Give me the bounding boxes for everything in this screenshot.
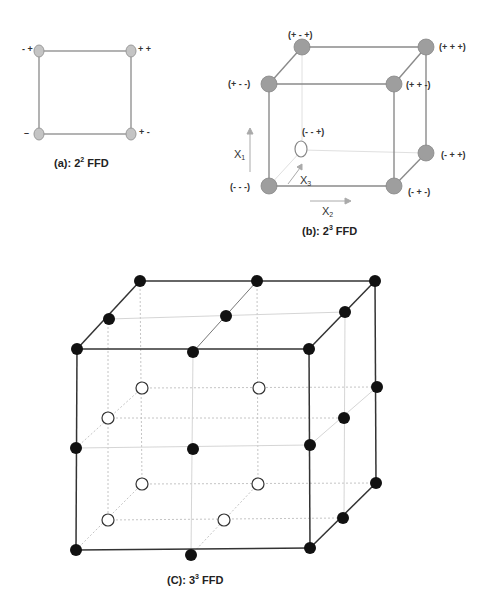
design-point: [126, 128, 136, 140]
caption-a: (a): 22 FFD: [54, 156, 109, 169]
axis-label-x3: X3: [300, 174, 311, 187]
x1-arrowhead: [247, 128, 253, 134]
label-minus-plus: - +: [22, 44, 33, 54]
label-minus-plus-minus: (- + -): [408, 187, 430, 197]
square-outline: [39, 51, 131, 134]
design-point: [34, 45, 44, 57]
figure-b-2-cubed-ffd: (+ - +) (+ + +) (+ - -) (+ + -) (- - +) …: [228, 30, 466, 237]
caption-c: (C): 33 FFD: [167, 573, 224, 586]
label-plus-plus-plus: (+ + +): [439, 42, 466, 52]
label-minus-minus: –: [24, 128, 29, 138]
design-point: [126, 45, 136, 57]
axis-arrows: [247, 128, 351, 204]
hidden-design-point: [295, 141, 307, 157]
axis-label-x1: X1: [234, 148, 245, 161]
hidden-edge: [302, 150, 426, 153]
axis-label-x2: X2: [322, 205, 333, 218]
caption-b: (b): 23 FFD: [302, 224, 357, 237]
label-plus-minus: + -: [139, 127, 150, 137]
hollow-design-points: [102, 382, 265, 526]
x3-arrow: [288, 168, 300, 184]
label-plus-minus-plus: (+ - +): [288, 30, 313, 40]
label-plus-plus: + +: [138, 44, 151, 54]
label-minus-plus-plus: (- + +): [441, 150, 466, 160]
x2-arrowhead: [345, 198, 351, 204]
cube-edges: [269, 47, 426, 186]
design-point: [34, 128, 44, 140]
label-minus-minus-plus: (- - +): [302, 127, 324, 137]
label-minus-minus-minus: (- - -): [230, 182, 250, 192]
ffd-diagram: - + + + – + - (a): 22 FFD: [0, 0, 500, 604]
label-plus-plus-minus: (+ + -): [406, 80, 431, 90]
figure-c-3-cubed-ffd: (C): 33 FFD: [70, 275, 383, 586]
figure-a-2-squared-ffd: - + + + – + - (a): 22 FFD: [22, 44, 151, 169]
label-plus-minus-minus: (+ - -): [228, 79, 250, 89]
